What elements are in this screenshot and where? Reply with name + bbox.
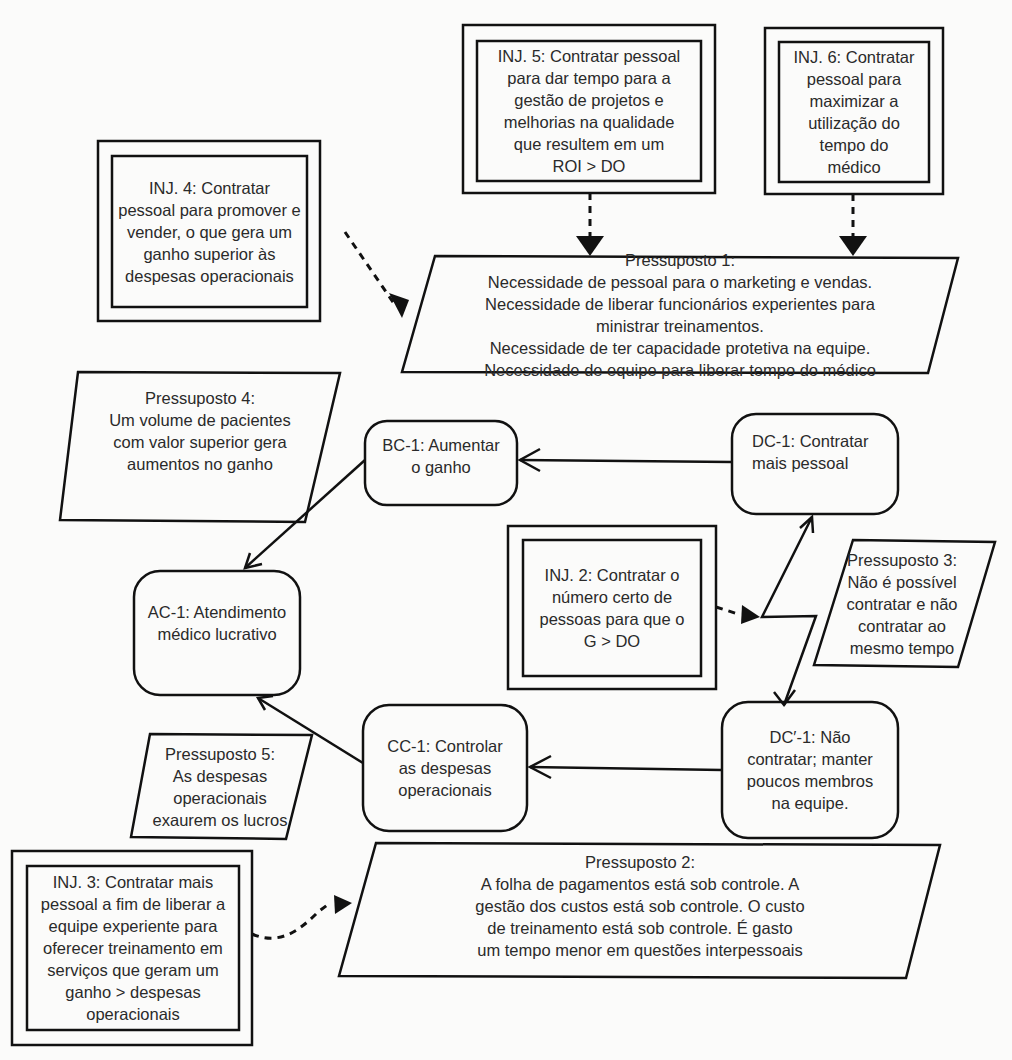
cc1-box: CC-1: Controlar as despesas operacionais	[363, 705, 527, 831]
inj4-box: INJ. 4: Contratar pessoal para promover …	[112, 156, 307, 307]
bc1-box: BC-1: Aumentar o ganho	[365, 421, 517, 491]
assumption-5-box: Pressuposto 5: As despesas operacionais …	[140, 738, 300, 836]
cc1-text: CC-1: Controlar as despesas operacionais	[387, 735, 503, 801]
inj5-box: INJ. 5: Contratar pessoal para dar tempo…	[477, 41, 701, 181]
dcp1-text: DC′-1: Não contratar; manter poucos memb…	[747, 726, 874, 814]
inj2-text: INJ. 2: Contratar o número certo de pess…	[540, 564, 685, 652]
dcp1-box: DC′-1: Não contratar; manter poucos memb…	[722, 702, 898, 838]
ac1-text: AC-1: Atendimento médico lucrativo	[148, 601, 287, 645]
assumption-4-box: Pressuposto 4: Um volume de pacientes co…	[80, 376, 320, 486]
assumption-3-box: Pressuposto 3: Não é possível contratar …	[822, 545, 982, 663]
inj6-box: INJ. 6: Contratar pessoal para maximizar…	[779, 42, 929, 182]
bc1-text: BC-1: Aumentar o ganho	[382, 434, 499, 478]
inj2-box: INJ. 2: Contratar o número certo de pess…	[523, 540, 701, 676]
inj6-text: INJ. 6: Contratar pessoal para maximizar…	[793, 46, 914, 178]
assumption-4-text: Pressuposto 4: Um volume de pacientes co…	[109, 387, 291, 475]
inj3-text: INJ. 3: Contratar mais pessoal a fim de …	[41, 871, 225, 1025]
assumption-1-text: Pressuposto 1: Necessidade de pessoal pa…	[484, 249, 876, 381]
inj4-text: INJ. 4: Contratar pessoal para promover …	[118, 177, 301, 287]
assumption-2-box: Pressuposto 2: A folha de pagamentos est…	[370, 846, 910, 966]
dc1-text: DC-1: Contratar mais pessoal	[752, 430, 868, 474]
inj5-text: INJ. 5: Contratar pessoal para dar tempo…	[498, 45, 681, 177]
diagram-canvas: INJ. 5: Contratar pessoal para dar tempo…	[0, 0, 1012, 1060]
assumption-5-text: Pressuposto 5: As despesas operacionais …	[153, 743, 288, 831]
assumption-2-text: Pressuposto 2: A folha de pagamentos est…	[475, 851, 804, 961]
assumption-1-box: Pressuposto 1: Necessidade de pessoal pa…	[420, 258, 940, 372]
ac1-box: AC-1: Atendimento médico lucrativo	[134, 571, 300, 675]
assumption-3-text: Pressuposto 3: Não é possível contratar …	[847, 549, 958, 659]
dc1-box: DC-1: Contratar mais pessoal	[752, 414, 898, 490]
inj3-box: INJ. 3: Contratar mais pessoal a fim de …	[27, 866, 239, 1030]
